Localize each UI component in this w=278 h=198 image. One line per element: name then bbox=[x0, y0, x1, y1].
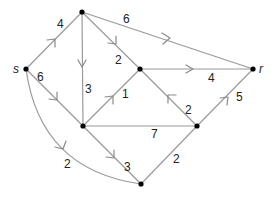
weight-C-D: 7 bbox=[151, 127, 158, 141]
weight-A-r: 6 bbox=[123, 12, 130, 26]
node-B bbox=[137, 66, 142, 71]
node-r bbox=[250, 66, 255, 71]
weight-D-r: 5 bbox=[236, 90, 243, 104]
edge-s-C bbox=[26, 69, 83, 126]
edge-A-B bbox=[82, 12, 140, 69]
weight-s-C: 6 bbox=[37, 70, 44, 84]
node-label-r: r bbox=[259, 62, 264, 76]
node-s bbox=[23, 66, 28, 71]
weight-s-E: 2 bbox=[64, 157, 71, 171]
edge-s-A bbox=[26, 12, 82, 69]
weight-E-D: 2 bbox=[173, 152, 180, 166]
node-A bbox=[79, 9, 84, 14]
edges bbox=[26, 12, 253, 184]
node-D bbox=[194, 123, 199, 128]
arrow-C-E-icon bbox=[106, 150, 114, 158]
weight-A-C: 3 bbox=[85, 82, 92, 96]
weight-C-B: 1 bbox=[122, 87, 129, 101]
edge-C-E bbox=[83, 126, 141, 184]
edge-E-D bbox=[141, 126, 197, 184]
weight-B-r: 4 bbox=[208, 71, 215, 85]
node-C bbox=[80, 123, 85, 128]
arrow-A-B-icon bbox=[108, 36, 116, 44]
node-label-s: s bbox=[13, 62, 19, 76]
weight-A-B: 2 bbox=[115, 53, 122, 67]
weight-D-B: 2 bbox=[185, 103, 192, 117]
edge-A-C bbox=[82, 12, 83, 126]
edge-C-B bbox=[83, 69, 140, 126]
node-E bbox=[138, 181, 143, 186]
network-diagram: s r 4 6 3 2 6 1 4 2 7 5 3 2 2 bbox=[0, 0, 278, 198]
weight-s-A: 4 bbox=[57, 17, 64, 31]
weight-C-E: 3 bbox=[124, 160, 131, 174]
